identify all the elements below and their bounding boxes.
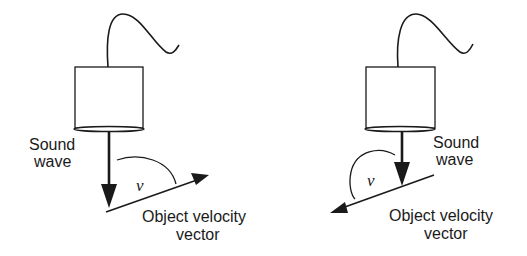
velocity-vector-arrowhead [191, 173, 209, 185]
transducer-body [366, 67, 435, 128]
sound-wave-label-line1: Sound [433, 134, 479, 151]
transducer-face [74, 126, 144, 131]
transducer-face [365, 126, 435, 131]
velocity-label-line2: vector [424, 225, 468, 242]
velocity-vector-line [342, 175, 434, 208]
transducer-cable [107, 14, 179, 67]
sound-wave-arrowhead [101, 184, 117, 208]
transducer-body [75, 67, 143, 128]
velocity-label-line1: Object velocity [389, 207, 493, 224]
angle-arc [117, 157, 176, 184]
transducer-cable [398, 14, 473, 67]
sound-wave-arrowhead [394, 162, 410, 186]
sound-wave-label-line1: Sound [29, 136, 75, 153]
sound-wave-label-line2: wave [435, 151, 473, 168]
angle-symbol: v [367, 171, 375, 190]
sound-wave-label-line2: wave [33, 153, 71, 170]
velocity-label-line1: Object velocity [142, 208, 246, 225]
velocity-vector-arrowhead [330, 202, 348, 213]
angle-symbol: v [136, 176, 144, 195]
velocity-label-line2: vector [176, 226, 220, 243]
doppler-angle-diagram: v Sound wave Object velocity vector v So… [0, 0, 527, 256]
figure-left: v Sound wave Object velocity vector [29, 14, 246, 243]
figure-right: v Sound wave Object velocity vector [330, 14, 493, 242]
